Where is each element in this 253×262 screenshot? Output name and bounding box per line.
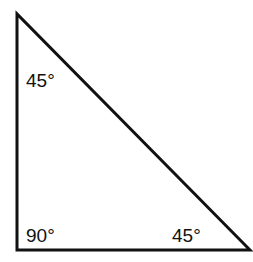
triangle-diagram [0,0,253,262]
angle-label-right-angle: 90° [26,226,55,245]
right-triangle [17,14,250,250]
angle-label-bottom-right: 45° [172,226,201,245]
angle-label-top: 45° [26,71,55,90]
